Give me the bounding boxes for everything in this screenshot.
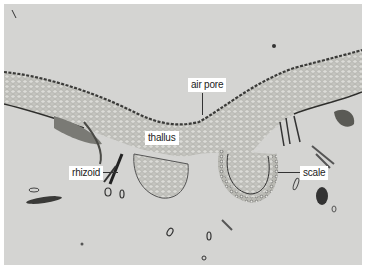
- label-scale: scale: [300, 166, 328, 180]
- air-pore-leader-line: [202, 93, 203, 115]
- label-air-pore: air pore: [188, 78, 226, 92]
- figure-frame: air pore thallus rhizoid scale: [0, 0, 367, 269]
- micrograph: [4, 4, 362, 265]
- label-thallus: thallus: [145, 131, 179, 145]
- scale-leader-line: [278, 172, 300, 173]
- micrograph-illustration: [4, 4, 362, 265]
- label-rhizoid: rhizoid: [69, 166, 103, 180]
